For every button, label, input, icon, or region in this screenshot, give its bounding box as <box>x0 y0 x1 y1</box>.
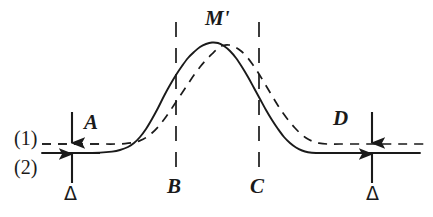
gap-arrows-group <box>72 112 372 183</box>
delta-label-right: Δ <box>366 184 379 203</box>
marker-label-d: D <box>333 108 348 129</box>
vertical-cuts-group <box>176 22 259 172</box>
series-label-1: (1) <box>14 128 37 148</box>
marker-label-b: B <box>167 176 181 197</box>
marker-label-m-prime: M' <box>205 8 230 29</box>
baselines-group <box>42 144 100 153</box>
curve-1-dashed-trace <box>42 45 424 144</box>
marker-label-c: C <box>250 176 264 197</box>
marker-label-a: A <box>84 112 98 133</box>
series-label-2: (2) <box>14 157 37 177</box>
curves-group <box>42 42 424 153</box>
delta-label-left: Δ <box>64 184 77 203</box>
curve-2-solid-trace <box>42 42 420 153</box>
figure-container: (1) (2) A D M' B C Δ Δ <box>0 0 433 217</box>
